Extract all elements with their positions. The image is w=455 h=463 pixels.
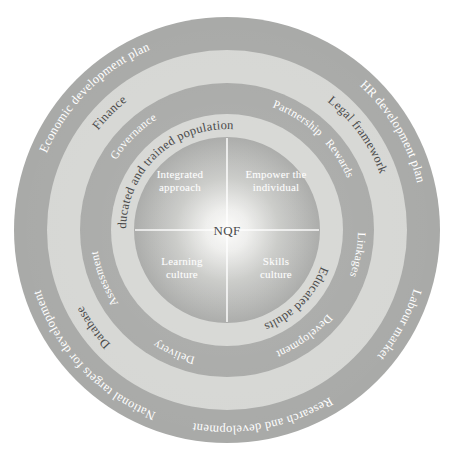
quadrant-label-integrated-approach: Integrated approach [140, 168, 220, 194]
quadrant-line-2: individual [234, 181, 318, 194]
quadrant-label-learning-culture: Learning culture [142, 255, 222, 281]
quadrant-label-skills-culture: Skills culture [236, 255, 316, 281]
quadrant-line-2: culture [142, 268, 222, 281]
quadrant-line-1: Integrated [140, 168, 220, 181]
quadrant-line-1: Skills [236, 255, 316, 268]
quadrant-label-empower-the-individual: Empower the individual [234, 168, 318, 194]
quadrant-line-1: Learning [142, 255, 222, 268]
quadrant-line-2: approach [140, 181, 220, 194]
diagram-canvas: Economic development plan HR development… [0, 0, 455, 463]
quadrant-line-1: Empower the [234, 168, 318, 181]
center-label-nqf: NQF [187, 223, 267, 239]
quadrant-line-2: culture [236, 268, 316, 281]
